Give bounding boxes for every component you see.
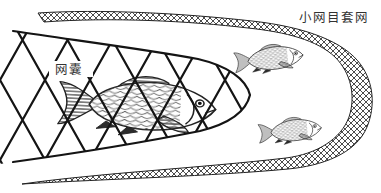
cod-end-label: 网囊 xyxy=(55,62,83,77)
small-fish-top xyxy=(233,41,304,76)
cod-end-mesh xyxy=(0,18,262,178)
cover-net-label: 小网目套网 xyxy=(299,10,369,25)
net-selectivity-figure: 网囊 小网目套网 xyxy=(0,0,381,193)
small-fish-bottom xyxy=(258,115,323,147)
net-diagram: 网囊 小网目套网 xyxy=(0,0,381,193)
